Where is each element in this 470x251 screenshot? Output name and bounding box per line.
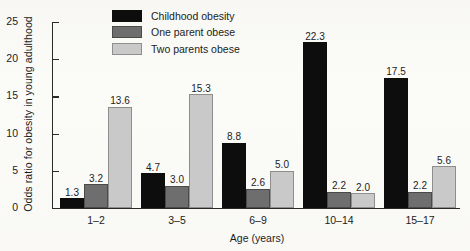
x-category-label: 3–5	[141, 214, 213, 226]
bar-value-label: 5.6	[437, 155, 451, 166]
chart-page: Odds ratio for obesity in young adulthoo…	[0, 0, 470, 251]
bar-value-label: 3.0	[170, 174, 184, 185]
y-tick-label: 20	[0, 52, 18, 64]
bar: 17.5	[384, 78, 408, 208]
y-tick-label: 10	[0, 127, 18, 139]
legend-item: Two parents obese	[112, 41, 240, 57]
bar-group: 22.32.22.0	[303, 14, 375, 208]
bar: 2.2	[327, 192, 351, 208]
bar: 2.6	[246, 189, 270, 208]
bar-value-label: 5.0	[275, 159, 289, 170]
bar-value-label: 2.2	[413, 180, 427, 191]
bar-value-label: 22.3	[305, 31, 324, 42]
bar: 3.2	[84, 184, 108, 208]
bar: 22.3	[303, 42, 327, 208]
bar-value-label: 1.3	[65, 187, 79, 198]
bar-group: 17.52.25.6	[384, 14, 456, 208]
x-category-label: 1–2	[60, 214, 132, 226]
x-category-label: 10–14	[303, 214, 375, 226]
x-axis-title: Age (years)	[52, 232, 462, 244]
bar: 3.0	[165, 186, 189, 208]
bar: 2.2	[408, 192, 432, 208]
x-category-label: 15–17	[384, 214, 456, 226]
bar: 5.6	[432, 166, 456, 208]
legend-label: Two parents obese	[151, 43, 240, 55]
legend-item: One parent obese	[112, 25, 240, 41]
y-tick-label: 25	[0, 15, 18, 27]
legend-swatch	[112, 26, 142, 38]
bar-value-label: 17.5	[386, 66, 405, 77]
legend-swatch	[112, 43, 142, 55]
bar-value-label: 2.6	[251, 177, 265, 188]
bar-value-label: 2.2	[332, 180, 346, 191]
bar: 4.7	[141, 173, 165, 208]
bar: 5.0	[270, 171, 294, 208]
bar-value-label: 3.2	[89, 173, 103, 184]
bar: 2.0	[351, 193, 375, 208]
y-tick-label: 0	[0, 201, 18, 213]
legend-item: Childhood obesity	[112, 8, 240, 24]
bar-value-label: 15.3	[191, 83, 210, 94]
bar: 13.6	[108, 107, 132, 208]
bar: 8.8	[222, 143, 246, 208]
chart-legend: Childhood obesityOne parent obeseTwo par…	[112, 8, 240, 58]
bar: 15.3	[189, 94, 213, 208]
x-category-label: 6–9	[222, 214, 294, 226]
bar: 1.3	[60, 198, 84, 208]
y-tick-label: 15	[0, 89, 18, 101]
legend-label: One parent obese	[151, 26, 235, 38]
bar-value-label: 8.8	[227, 131, 241, 142]
y-axis-title: Odds ratio for obesity in young adulthoo…	[22, 14, 34, 214]
legend-swatch	[112, 10, 142, 22]
bar-value-label: 2.0	[356, 182, 370, 193]
y-tick-label: 5	[0, 164, 18, 176]
legend-label: Childhood obesity	[151, 10, 234, 22]
bar-value-label: 13.6	[110, 95, 129, 106]
bar-value-label: 4.7	[146, 162, 160, 173]
